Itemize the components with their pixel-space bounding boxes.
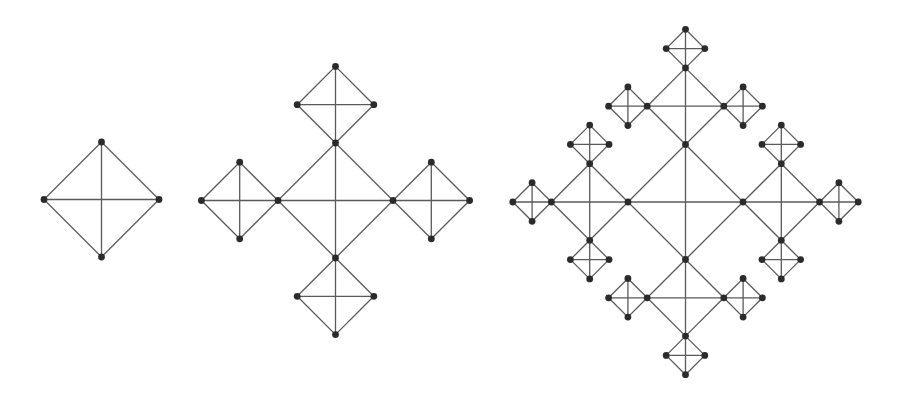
graph-node [720,103,727,110]
graph-node [740,314,747,321]
graph-edge [44,200,102,258]
graph-node [294,101,301,108]
graph-edge [513,183,532,202]
graph-edge [743,164,781,202]
graph-node [275,197,282,204]
figure-stage-3 [509,26,861,378]
graph-edge [628,279,647,298]
graph-edge [666,355,685,374]
graph-node [567,141,574,148]
graph-edge [647,106,685,144]
graph-node [370,293,377,300]
graph-node [740,199,747,206]
graph-edge [44,142,102,200]
graph-node [797,256,804,263]
graph-node [198,197,205,204]
graph-node [606,141,613,148]
graph-edge [297,66,335,104]
graph-node [759,103,766,110]
graph-edge [551,202,589,240]
graph-edge [743,106,762,125]
graph-edge [743,298,762,317]
graph-edge [781,125,800,144]
graph-edge [743,202,781,240]
graph-edge [647,68,685,106]
graph-node [98,254,105,261]
graph-node [236,159,243,166]
graph-edge [590,240,609,259]
fractal-diagram-svg [0,0,898,395]
graph-edge [820,202,839,221]
graph-node [778,122,785,129]
graph-edge [102,142,160,200]
graph-edge [590,202,628,240]
graph-edge [431,201,469,239]
graph-edge [532,183,551,202]
graph-node [332,140,339,147]
graph-edge [590,144,609,163]
graph-edge [686,355,705,374]
graph-node [759,141,766,148]
graph-node [644,103,651,110]
graph-edge [686,49,705,68]
graph-node [605,103,612,110]
graph-node [605,294,612,301]
graph-edge [336,143,394,201]
graph-edge [297,296,335,334]
graph-edge [686,106,724,144]
graph-node [778,276,785,283]
graph-node [625,314,632,321]
graph-edge [513,202,532,221]
graph-node [586,237,593,244]
graph-edge [102,200,160,258]
graph-edge [781,164,819,202]
graph-node [778,160,785,167]
graph-node [98,139,105,146]
graph-node [548,199,555,206]
graph-edge [781,260,800,279]
graph-edge [647,260,685,298]
graph-node [390,197,397,204]
graph-node [663,352,670,359]
graph-node [41,196,48,203]
graph-edge [297,105,335,143]
graph-edge [666,29,685,48]
graph-node [855,199,862,206]
graph-node [509,199,516,206]
graph-edge [686,202,744,260]
graph-edge [297,258,335,296]
graph-node [529,218,536,225]
graph-edge [590,164,628,202]
graph-edge [570,144,589,163]
figure-stage-2 [198,63,473,338]
graph-node [701,352,708,359]
graph-edge [609,279,628,298]
graph-edge [781,202,819,240]
graph-edge [336,66,374,104]
graph-node [797,141,804,148]
graph-node [529,179,536,186]
graph-edge [278,201,336,259]
figure-stage-1 [41,139,163,261]
graph-edge [839,202,858,221]
graph-node [816,199,823,206]
graph-node [236,235,243,242]
graph-edge [628,106,647,125]
graph-edge [686,145,744,203]
graph-node [682,333,689,340]
graph-edge [781,240,800,259]
graph-node [682,141,689,148]
graph-edge [762,240,781,259]
graph-edge [686,260,724,298]
graph-edge [570,125,589,144]
graph-node [720,294,727,301]
graph-node [740,122,747,129]
graph-node [682,65,689,72]
graph-edge [393,201,431,239]
graph-node [625,275,632,282]
graph-edge [336,105,374,143]
graph-edge [532,202,551,221]
graph-edge [628,202,686,260]
graph-node [740,275,747,282]
graph-node [836,179,843,186]
